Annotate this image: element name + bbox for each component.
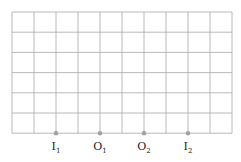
point-label-i2: I2: [184, 140, 193, 155]
point-label-i1: I1: [52, 140, 61, 155]
point-marker: [142, 131, 146, 135]
point-label-o2: O2: [137, 140, 151, 155]
point-marker: [186, 131, 190, 135]
point-label-o1: O1: [93, 140, 107, 155]
point-marker: [98, 131, 102, 135]
grid-diagram: [0, 0, 241, 162]
point-marker: [54, 131, 58, 135]
